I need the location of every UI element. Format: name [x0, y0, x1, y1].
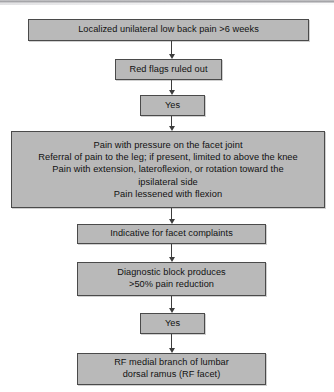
- arrow-stem: [171, 208, 172, 220]
- indicative-box-label: Indicative for facet complaints: [110, 228, 233, 240]
- treatment-box-label: RF medial branch of lumbar dorsal ramus …: [114, 357, 229, 381]
- arrow-stem: [171, 296, 172, 309]
- yes-box-1-label: Yes: [165, 100, 180, 112]
- arrow-complaint-to-red-flags: [166, 41, 177, 59]
- red-flags-box: Red flags ruled out: [115, 59, 222, 80]
- yes-box-1: Yes: [140, 95, 205, 116]
- clinical-findings-box: Pain with pressure on the facet joint Re…: [11, 131, 325, 208]
- arrow-diagnostic-to-yes-2: [166, 296, 177, 313]
- arrow-yes-1-to-findings: [166, 116, 177, 131]
- arrow-red-flags-to-yes-1: [166, 80, 177, 95]
- arrow-stem: [171, 244, 172, 258]
- diagnostic-block-box-label: Diagnostic block produces >50% pain redu…: [117, 267, 226, 291]
- arrow-stem: [171, 41, 172, 55]
- complaint-box-label: Localized unilateral low back pain >6 we…: [78, 24, 259, 36]
- complaint-box: Localized unilateral low back pain >6 we…: [28, 19, 309, 41]
- arrow-findings-to-indicative: [166, 208, 177, 224]
- diagnostic-block-box: Diagnostic block produces >50% pain redu…: [77, 262, 266, 296]
- yes-box-2-label: Yes: [165, 318, 180, 330]
- arrow-stem: [171, 116, 172, 127]
- scan-edge-artifact-secondary: [0, 3, 334, 5]
- treatment-box: RF medial branch of lumbar dorsal ramus …: [77, 353, 266, 385]
- arrow-yes-2-to-treatment: [166, 334, 177, 353]
- yes-box-2: Yes: [140, 313, 205, 334]
- arrow-stem: [171, 80, 172, 91]
- red-flags-box-label: Red flags ruled out: [129, 64, 207, 76]
- arrow-indicative-to-diagnostic: [166, 244, 177, 262]
- clinical-findings-box-label: Pain with pressure on the facet joint Re…: [38, 139, 298, 201]
- arrow-stem: [171, 334, 172, 349]
- indicative-box: Indicative for facet complaints: [77, 224, 266, 244]
- flowchart-diagram: Localized unilateral low back pain >6 we…: [0, 0, 334, 392]
